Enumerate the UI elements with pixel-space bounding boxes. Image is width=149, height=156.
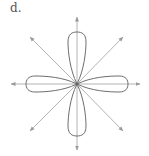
origin-point [76,83,79,86]
polar-rose-diagram [0,0,149,156]
